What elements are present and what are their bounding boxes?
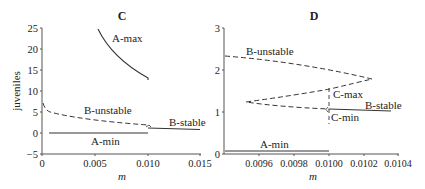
c-y-tick-labels: 25 20 15 10 5 0 −5 (27, 23, 38, 160)
c-ytick: 25 (28, 23, 39, 34)
c-ytick: 20 (28, 44, 39, 55)
d-xtick: 0.0104 (384, 158, 412, 169)
panel-d-title: D (310, 9, 319, 23)
d-x-tick-labels: 0.0096 0.0098 0.0100 0.0102 0.0104 (245, 158, 412, 169)
figure: C 25 20 15 10 5 0 −5 (0, 0, 425, 189)
c-x-tick-labels: 0 0.005 0.010 0.015 (39, 158, 211, 169)
d-ytick: 0 (215, 149, 220, 160)
panel-c: C 25 20 15 10 5 0 −5 (10, 9, 212, 182)
d-x-axis-label: m (309, 170, 317, 182)
d-label-a-min: A-min (260, 138, 289, 150)
c-label-b-unstable: B-unstable (84, 104, 132, 116)
c-ytick: 10 (28, 86, 39, 97)
d-curve-b-unstable (225, 56, 372, 109)
c-y-axis-label: juveniles (10, 71, 22, 112)
d-xtick: 0.0096 (245, 158, 273, 169)
c-xtick: 0 (39, 158, 44, 169)
c-ytick: 15 (28, 65, 39, 76)
c-label-a-min: A-min (91, 135, 120, 147)
d-ytick: 1 (215, 107, 220, 118)
c-bifurcation-marker (146, 125, 151, 127)
d-label-c-min: C-min (331, 111, 360, 123)
c-ytick: −5 (27, 149, 38, 160)
c-curve-b-stable (148, 128, 200, 130)
c-x-axis-label: m (118, 170, 126, 182)
c-xtick: 0.005 (83, 158, 107, 169)
d-ytick: 3 (215, 23, 220, 34)
d-xtick: 0.0102 (350, 158, 378, 169)
d-bifurcation-marker (326, 107, 328, 112)
d-label-c-max: C-max (333, 88, 363, 100)
c-xtick: 0.015 (188, 158, 212, 169)
panel-c-title: C (118, 9, 127, 23)
c-ytick: 5 (33, 107, 38, 118)
d-label-b-unstable: B-unstable (246, 45, 294, 57)
c-xtick: 0.010 (136, 158, 160, 169)
c-ytick: 0 (33, 128, 38, 139)
c-label-a-max: A-max (112, 32, 143, 44)
d-label-b-stable: B-stable (365, 99, 402, 111)
panel-d: D 3 2 1 0 0.0096 0.0098 0.0100 (215, 9, 412, 182)
d-ytick: 2 (215, 65, 220, 76)
c-label-b-stable: B-stable (169, 116, 206, 128)
d-y-tick-labels: 3 2 1 0 (215, 23, 220, 160)
d-xtick: 0.0098 (280, 158, 308, 169)
d-xtick: 0.0100 (315, 158, 343, 169)
